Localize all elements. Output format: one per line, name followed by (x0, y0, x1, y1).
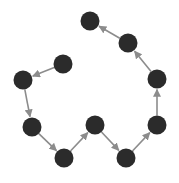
nodes-layer (14, 12, 167, 168)
node-n7 (148, 116, 167, 135)
node-n9 (119, 34, 138, 53)
edge-n9-n10 (99, 26, 120, 38)
edge-n2-n3 (25, 89, 30, 116)
node-n5 (86, 116, 105, 135)
node-n2 (14, 71, 33, 90)
node-n1 (54, 55, 73, 74)
node-n6 (117, 149, 136, 168)
edge-n5-n6 (102, 132, 119, 150)
path-graph (0, 0, 179, 183)
edge-n4-n5 (71, 133, 88, 151)
edge-n3-n4 (39, 134, 57, 151)
edge-n8-n9 (135, 51, 151, 71)
edge-n1-n2 (33, 68, 54, 77)
node-n3 (23, 118, 42, 137)
node-n8 (148, 70, 167, 89)
node-n10 (81, 12, 100, 31)
node-n4 (55, 149, 74, 168)
edge-n6-n7 (133, 133, 150, 151)
